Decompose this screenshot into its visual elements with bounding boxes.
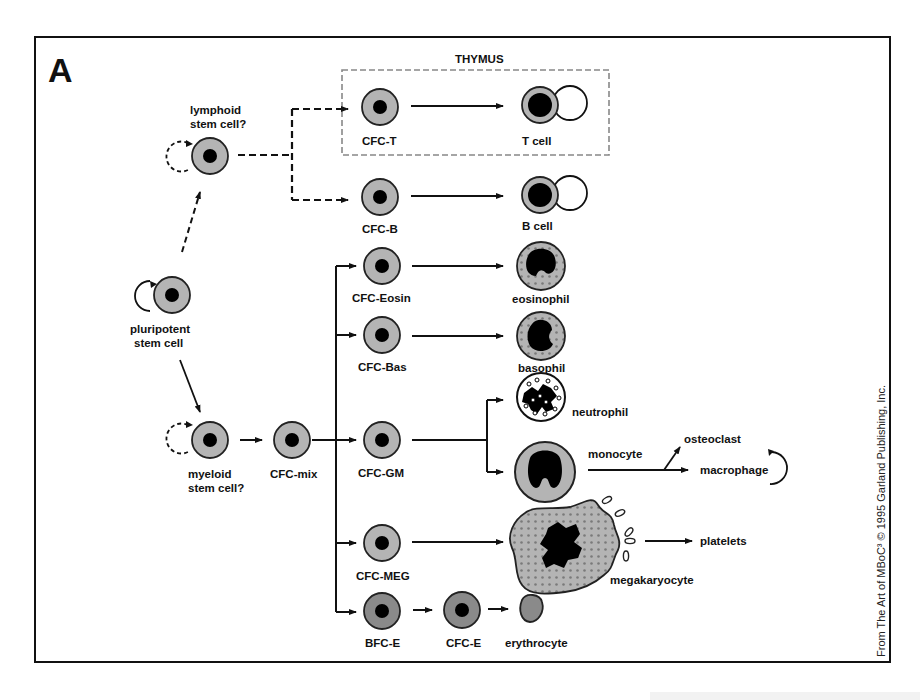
arrow-pluripotent-to-lymphoid — [182, 192, 200, 252]
cfc-e-cell: CFC-E — [444, 592, 481, 649]
cfc-e-label: CFC-E — [446, 637, 481, 649]
eosinophil-label: eosinophil — [512, 293, 570, 305]
cfc-meg-label: CFC-MEG — [356, 570, 410, 582]
cfc-gm-cell: CFC-GM — [358, 422, 404, 479]
arrow-pluripotent-to-myeloid — [180, 360, 200, 412]
t-cell-label: T cell — [522, 135, 551, 147]
cfc-t-cell: CFC-T — [362, 89, 398, 147]
cfc-meg-cell: CFC-MEG — [356, 525, 410, 582]
neutrophil: neutrophil — [517, 373, 628, 421]
thymus-label: THYMUS — [455, 53, 504, 65]
cfc-eosin-cell: CFC-Eosin — [352, 248, 411, 304]
macrophage-self-renew-icon — [770, 452, 787, 484]
arrow-monocyte-to-osteoclast — [664, 447, 680, 470]
panel-label: A — [48, 51, 73, 89]
cfc-bas-label: CFC-Bas — [358, 361, 407, 373]
monocyte-label: monocyte — [588, 448, 642, 460]
monocyte: monocyte — [515, 442, 642, 502]
lymphoid-label-2: stem cell? — [190, 118, 246, 130]
bfc-e-label: BFC-E — [365, 637, 400, 649]
gm-branch-lines — [412, 400, 503, 472]
b-cell-label: B cell — [522, 220, 553, 232]
myeloid-stem-cell: myeloid stem cell? — [166, 421, 244, 494]
t-cell: T cell — [522, 86, 587, 147]
cfc-t-label: CFC-T — [362, 135, 397, 147]
lymphoid-stem-cell: lymphoid stem cell? — [166, 104, 246, 174]
bottom-edge-bar — [650, 692, 920, 700]
pluripotent-label-1: pluripotent — [130, 323, 190, 335]
b-cell: B cell — [522, 176, 587, 232]
cfc-b-cell: CFC-B — [362, 179, 398, 235]
figure-frame — [35, 37, 890, 662]
megakaryocyte: megakaryocyte — [510, 495, 694, 593]
cfc-bas-cell: CFC-Bas — [358, 317, 407, 373]
pluripotent-stem-cell: pluripotent stem cell — [130, 277, 190, 349]
lymphoid-label-1: lymphoid — [190, 104, 241, 116]
myeloid-label-2: stem cell? — [188, 482, 244, 494]
hematopoiesis-diagram: A THYMUS pluripotent stem cell lymphoid … — [0, 0, 923, 700]
cfc-eosin-label: CFC-Eosin — [352, 292, 411, 304]
megakaryocyte-label: megakaryocyte — [610, 574, 694, 586]
cfc-mix-cell: CFC-mix — [270, 422, 318, 480]
pluripotent-label-2: stem cell — [134, 337, 183, 349]
myeloid-branch-lines — [312, 266, 356, 612]
cfc-gm-label: CFC-GM — [358, 467, 404, 479]
neutrophil-label: neutrophil — [572, 406, 628, 418]
cfc-mix-label: CFC-mix — [270, 468, 318, 480]
cfc-b-label: CFC-B — [362, 223, 398, 235]
lymphoid-branch-lines — [238, 109, 348, 200]
erythrocyte: erythrocyte — [505, 595, 568, 649]
platelets-label: platelets — [700, 535, 747, 547]
eosinophil: eosinophil — [512, 242, 570, 305]
myeloid-label-1: myeloid — [188, 468, 231, 480]
bfc-e-cell: BFC-E — [364, 593, 400, 649]
macrophage-label: macrophage — [700, 464, 768, 476]
copyright-credit: From The Art of MBoC³ © 1995 Garland Pub… — [875, 385, 887, 657]
osteoclast-label: osteoclast — [684, 433, 741, 445]
erythrocyte-label: erythrocyte — [505, 637, 568, 649]
basophil: basophil — [517, 312, 565, 374]
